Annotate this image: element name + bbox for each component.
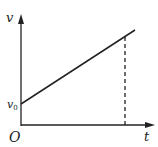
vt-graph: v t O v0 (0, 0, 158, 147)
velocity-line (21, 30, 135, 104)
y-axis-arrow-icon (18, 14, 24, 24)
origin-label: O (9, 129, 21, 145)
y-axis-label: v (6, 10, 14, 25)
intercept-label-subscript: 0 (13, 104, 17, 112)
x-axis-label: t (144, 129, 150, 144)
intercept-label: v0 (7, 98, 18, 112)
x-axis-arrow-icon (145, 122, 155, 128)
